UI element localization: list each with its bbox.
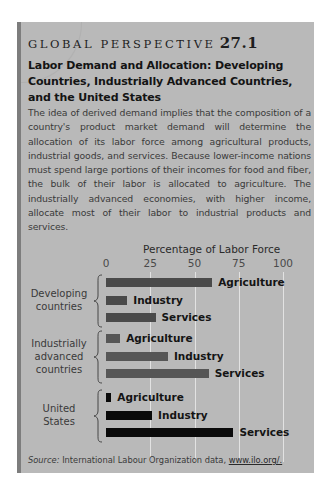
kicker-label: GLOBAL PERSPECTIVE bbox=[28, 37, 216, 51]
bar-industry bbox=[106, 296, 127, 305]
group-label: UnitedStates bbox=[23, 402, 95, 428]
bar-agriculture bbox=[106, 393, 111, 402]
x-tick-label: 50 bbox=[188, 257, 201, 269]
bar-label: Services bbox=[215, 367, 265, 379]
source-text: International Labour Organization data, bbox=[62, 455, 226, 465]
x-tick-label: 75 bbox=[232, 257, 245, 269]
bar-industry bbox=[106, 352, 168, 361]
bar-label: Services bbox=[162, 311, 212, 323]
x-tick-label: 100 bbox=[273, 257, 293, 269]
group-brace-icon bbox=[93, 389, 103, 447]
group-label: Industriallyadvancedcountries bbox=[23, 337, 95, 376]
source-label: Source: bbox=[28, 455, 59, 465]
group-label: Developingcountries bbox=[23, 287, 95, 313]
panel-accent-strip bbox=[17, 22, 21, 473]
group-brace-icon bbox=[93, 330, 103, 388]
bar-agriculture bbox=[106, 278, 212, 287]
bar-label: Services bbox=[239, 426, 289, 438]
bar-agriculture bbox=[106, 334, 120, 343]
x-tick-label: 0 bbox=[103, 257, 110, 269]
bar-label: Industry bbox=[174, 350, 224, 362]
x-tick-label: 25 bbox=[144, 257, 157, 269]
bar-label: Agriculture bbox=[126, 332, 193, 344]
bar-services bbox=[106, 369, 209, 378]
bar-label: Industry bbox=[158, 409, 208, 421]
bar-label: Agriculture bbox=[117, 391, 184, 403]
panel-title: Labor Demand and Allocation: Developing … bbox=[28, 58, 310, 106]
global-perspective-panel: GLOBAL PERSPECTIVE27.1 Labor Demand and … bbox=[17, 22, 314, 473]
section-kicker: GLOBAL PERSPECTIVE27.1 bbox=[28, 34, 258, 52]
bar-industry bbox=[106, 411, 152, 420]
axis-title: Percentage of Labor Force bbox=[143, 243, 280, 255]
source-note: Source: International Labour Organizatio… bbox=[28, 455, 282, 465]
group-brace-icon bbox=[93, 274, 103, 332]
bar-services bbox=[106, 313, 156, 322]
bar-label: Industry bbox=[133, 294, 183, 306]
bar-label: Agriculture bbox=[218, 276, 285, 288]
panel-body-text: The idea of derived demand implies that … bbox=[28, 106, 311, 235]
kicker-number: 27.1 bbox=[220, 34, 259, 52]
bar-services bbox=[106, 428, 233, 437]
source-link[interactable]: www.ilo.org/. bbox=[229, 455, 282, 465]
